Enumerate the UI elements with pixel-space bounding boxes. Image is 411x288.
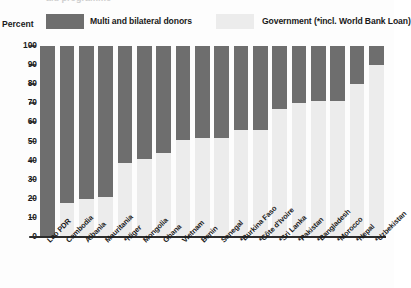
bar-segment-donors bbox=[330, 46, 345, 101]
bar-segment-donors bbox=[118, 46, 133, 163]
cut-off-title: aid programme bbox=[46, 0, 111, 3]
bar-column[interactable] bbox=[40, 46, 55, 237]
y-tick-label: 70 bbox=[28, 97, 37, 107]
bar-segment-donors bbox=[350, 46, 365, 84]
y-tick-label: 60 bbox=[28, 116, 37, 126]
y-axis-caption: Percent bbox=[2, 19, 34, 29]
bar-segment-donors bbox=[98, 46, 113, 197]
bar-column[interactable] bbox=[79, 46, 94, 237]
bar-column[interactable] bbox=[137, 46, 152, 237]
y-tick-label: 10 bbox=[28, 212, 37, 222]
legend-label-donors: Multi and bilateral donors bbox=[90, 16, 192, 26]
bar-column[interactable] bbox=[350, 46, 365, 237]
bar-segment-donors bbox=[272, 46, 287, 109]
bar-segment-donors bbox=[234, 46, 249, 130]
bar-segment-donors bbox=[40, 46, 55, 237]
bar-segment-donors bbox=[137, 46, 152, 159]
chart-legend: Multi and bilateral donors Government (*… bbox=[0, 13, 394, 33]
legend-swatch-donors bbox=[46, 14, 84, 29]
y-tick-label: 40 bbox=[28, 155, 37, 165]
bar-segment-donors bbox=[214, 46, 229, 138]
bar-segment-donors bbox=[60, 46, 75, 203]
y-tick-label: 80 bbox=[28, 78, 37, 88]
bar-column[interactable] bbox=[253, 46, 268, 237]
cut-off-title-strip: aid programme bbox=[0, 0, 394, 11]
bar-segment-donors bbox=[176, 46, 191, 140]
y-tick-label: 90 bbox=[28, 59, 37, 69]
bar-column[interactable] bbox=[176, 46, 191, 237]
bar-column[interactable] bbox=[60, 46, 75, 237]
bar-segment-donors bbox=[195, 46, 210, 138]
bar-segment-government bbox=[369, 65, 384, 237]
bar-column[interactable] bbox=[234, 46, 249, 237]
bar-column[interactable] bbox=[369, 46, 384, 237]
bar-column[interactable] bbox=[214, 46, 229, 237]
bar-segment-donors bbox=[311, 46, 326, 101]
bar-segment-government bbox=[214, 138, 229, 237]
bar-segment-donors bbox=[292, 46, 307, 103]
y-tick-label: 20 bbox=[28, 193, 37, 203]
bar-column[interactable] bbox=[292, 46, 307, 237]
bar-column[interactable] bbox=[156, 46, 171, 237]
bar-segment-donors bbox=[253, 46, 268, 130]
y-tick-label: 50 bbox=[28, 136, 37, 146]
y-tick-label: 100 bbox=[23, 40, 37, 50]
bar-column[interactable] bbox=[311, 46, 326, 237]
bar-column[interactable] bbox=[98, 46, 113, 237]
bars-group bbox=[38, 46, 386, 237]
y-tick-label: 30 bbox=[28, 174, 37, 184]
bar-segment-donors bbox=[79, 46, 94, 199]
bar-segment-donors bbox=[369, 46, 384, 65]
legend-swatch-government bbox=[216, 14, 254, 29]
bar-segment-donors bbox=[156, 46, 171, 153]
plot-area: 0102030405060708090100 bbox=[38, 46, 386, 237]
x-axis-labels: Lao PDRCambodiaAlbaniaMauritania*NigerMo… bbox=[38, 238, 394, 288]
bar-column[interactable] bbox=[195, 46, 210, 237]
bar-column[interactable] bbox=[118, 46, 133, 237]
legend-label-government: Government (*incl. World Bank Loan) bbox=[262, 16, 411, 26]
